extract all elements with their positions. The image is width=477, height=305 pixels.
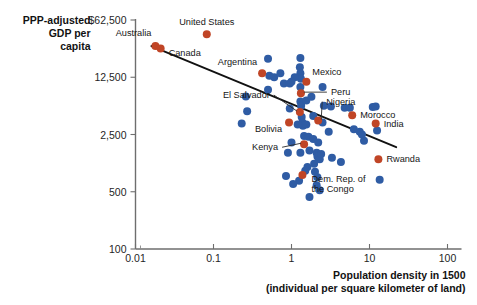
y-tick-label: 12,500 [94,71,126,83]
y-axis-title-line: PPP-adjusted [23,14,91,26]
data-point [276,69,284,77]
point-label: the Congo [311,184,353,194]
point-label: Argentina [218,57,258,67]
point-label: Rwanda [386,154,421,164]
data-point-highlighted [302,78,310,86]
y-axis-title-line: capita [60,40,91,52]
data-point [310,160,318,168]
data-point-highlighted [374,155,382,163]
data-point [264,55,272,63]
data-point-highlighted [157,45,165,53]
x-axis-subtitle: (individual per square kilometer of land… [266,282,466,294]
data-point [307,93,315,101]
y-axis-title-line: GDP per [49,27,91,39]
data-point [288,78,296,86]
data-point [238,120,246,128]
y-tick-label: $62,500 [89,14,127,26]
data-point [294,121,302,129]
label-leader-line [274,95,297,111]
x-tick-label: 0.1 [206,252,221,264]
data-point [302,121,310,129]
point-label: India [384,119,405,129]
data-point [328,154,336,162]
data-point-highlighted [298,171,306,179]
data-point [289,180,297,188]
data-point [319,83,327,91]
point-label: Kenya [252,142,279,152]
data-point-highlighted [300,140,308,148]
data-point-highlighted [258,69,266,77]
point-label: United States [179,17,235,27]
axes: $62,50012,5002,5005001000.010.1110100 [89,14,462,264]
y-tick-label: 2,500 [100,129,126,141]
data-point [314,138,322,146]
y-tick-label: 500 [109,186,127,198]
data-point [325,128,333,136]
chart-figure: $62,50012,5002,5005001000.010.1110100 Au… [0,0,477,305]
data-point-highlighted [297,89,305,97]
data-point [282,172,290,180]
x-tick-label: 0.01 [125,252,146,264]
scatter-plot: $62,50012,5002,5005001000.010.1110100 Au… [0,0,477,305]
data-point [373,126,381,134]
x-axis-title: Population density in 1500 [333,269,466,281]
point-label: Mexico [312,67,341,77]
data-point-highlighted [348,111,356,119]
point-label: Bolivia [255,124,283,134]
point-label: Canada [169,48,202,58]
data-point [243,107,251,115]
data-point [305,193,313,201]
data-point [284,149,292,157]
data-point-highlighted [285,119,293,127]
data-point-highlighted [203,30,211,38]
data-point [358,131,366,139]
data-point [317,150,325,158]
x-tick-label: 100 [439,252,457,264]
data-point-highlighted [296,108,304,116]
point-label: Dem. Rep. of [311,174,366,184]
point-label: Australia [116,28,153,38]
data-point [296,54,304,62]
y-tick-label: 100 [109,243,127,255]
data-point-highlighted [372,120,380,128]
x-tick-label: 10 [364,252,376,264]
point-label: El Salvador [223,90,270,100]
x-tick-label: 1 [289,252,295,264]
data-point [337,158,345,166]
data-point [305,146,313,154]
point-label: Nigeria [326,97,356,107]
data-point [296,149,304,157]
data-point [376,176,384,184]
